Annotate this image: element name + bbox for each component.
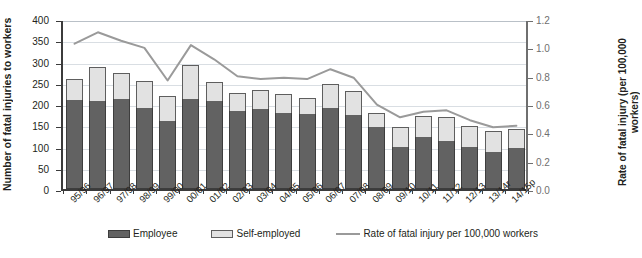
legend-label-self-employed: Self-employed xyxy=(236,228,300,239)
y-label-right-1.2: 1.2 xyxy=(536,16,564,26)
y-label-right-0.2: 0.2 xyxy=(536,158,564,168)
y-label-right-0.6: 0.6 xyxy=(536,101,564,111)
y-label-left-350: 350 xyxy=(21,37,49,47)
y-label-left-200: 200 xyxy=(21,101,49,111)
legend-swatch-rate-line xyxy=(336,233,360,235)
legend-label-rate: Rate of fatal injury per 100,000 workers xyxy=(363,228,538,239)
y-axis-right-title: Rate of fatal injury (per 100,000 worker… xyxy=(617,30,641,195)
y-axis-left-title: Number of fatal injuries to workers xyxy=(2,12,13,197)
legend-label-employee: Employee xyxy=(133,228,177,239)
y-label-right-0.8: 0.8 xyxy=(536,73,564,83)
y-label-left-0: 0 xyxy=(21,186,49,196)
y-tick-right-0.8 xyxy=(528,78,533,79)
legend-swatch-self-employed xyxy=(211,230,233,238)
y-label-left-300: 300 xyxy=(21,59,49,69)
rate-line-series xyxy=(63,21,528,191)
y-tick-left-400 xyxy=(56,21,61,22)
y-label-right-1.0: 1.0 xyxy=(536,44,564,54)
y-tick-left-250 xyxy=(56,85,61,86)
plot-area xyxy=(61,21,526,191)
y-tick-right-1.0 xyxy=(528,49,533,50)
legend-item-rate: Rate of fatal injury per 100,000 workers xyxy=(336,228,538,239)
y-tick-left-300 xyxy=(56,64,61,65)
y-tick-left-200 xyxy=(56,106,61,107)
y-tick-left-50 xyxy=(56,170,61,171)
y-label-left-150: 150 xyxy=(21,122,49,132)
y-tick-left-0 xyxy=(56,191,61,192)
x-tick-0 xyxy=(63,189,64,194)
y-tick-left-150 xyxy=(56,127,61,128)
y-tick-left-100 xyxy=(56,149,61,150)
legend-item-self-employed: Self-employed xyxy=(211,228,300,239)
fatal-injuries-chart: Number of fatal injuries to workers Rate… xyxy=(0,0,642,258)
y-label-left-50: 50 xyxy=(21,165,49,175)
y-tick-right-0.2 xyxy=(528,163,533,164)
y-label-right-0.4: 0.4 xyxy=(536,129,564,139)
y-label-left-100: 100 xyxy=(21,144,49,154)
rate-line-path xyxy=(75,32,517,127)
y-tick-right-0.6 xyxy=(528,106,533,107)
y-label-left-400: 400 xyxy=(21,16,49,26)
y-label-right-0.0: 0.0 xyxy=(536,186,564,196)
y-label-left-250: 250 xyxy=(21,80,49,90)
y-tick-right-0.4 xyxy=(528,134,533,135)
y-tick-right-1.2 xyxy=(528,21,533,22)
chart-legend: Employee Self-employed Rate of fatal inj… xyxy=(108,228,538,239)
y-tick-left-350 xyxy=(56,42,61,43)
legend-item-employee: Employee xyxy=(108,228,177,239)
legend-swatch-employee xyxy=(108,230,130,238)
